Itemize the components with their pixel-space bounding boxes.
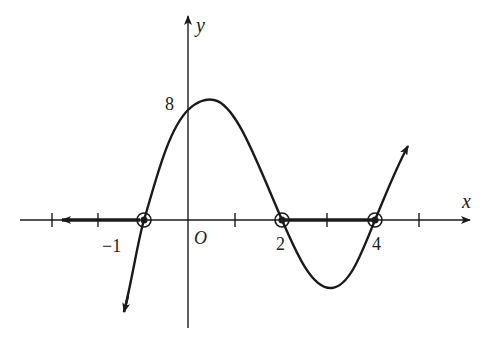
cubic-curve <box>124 99 408 312</box>
x-tick-label-neg1: −1 <box>102 236 121 256</box>
x-tick-label-2: 2 <box>276 234 285 254</box>
y-tick-label-8: 8 <box>165 94 174 114</box>
x-tick-label-4: 4 <box>372 234 381 254</box>
y-axis-label: y <box>194 14 205 37</box>
origin-label: O <box>194 228 207 248</box>
function-graph: y x O 8 −1 2 4 <box>0 0 486 342</box>
x-axis-label: x <box>461 190 471 212</box>
